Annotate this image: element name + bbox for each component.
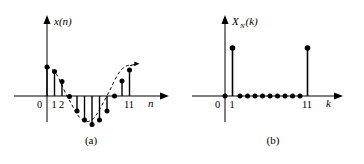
panel-b-plot: 0 1 11 X N (k) k [182, 0, 364, 134]
ktick-label-1: 1 [230, 99, 235, 110]
figure-root: 0 1 2 11 x(n) n (a) [0, 0, 364, 164]
envelope-curve-a [47, 62, 140, 122]
x-axis-label-b: k [326, 97, 332, 109]
xtick-label-2: 2 [59, 99, 64, 110]
xtick-label-1: 1 [52, 99, 57, 110]
y-axis-b [222, 15, 229, 122]
xtick-label-0: 0 [37, 99, 42, 110]
caption-a: (a) [0, 134, 182, 146]
panel-a: 0 1 2 11 x(n) n (a) [0, 0, 182, 164]
stem-series-b [223, 45, 311, 98]
x-axis-label-a: n [148, 97, 154, 109]
caption-b: (b) [182, 134, 364, 146]
y-axis-label-b-sub: N [239, 22, 245, 30]
panel-b: 0 1 11 X N (k) k (b) [182, 0, 364, 164]
xtick-label-11: 11 [124, 99, 134, 110]
y-axis-label-a: x(n) [53, 15, 72, 28]
ktick-label-0: 0 [215, 99, 220, 110]
y-axis-label-b-tail: (k) [246, 15, 259, 28]
panel-a-plot: 0 1 2 11 x(n) n [0, 0, 182, 134]
ktick-label-11: 11 [302, 99, 312, 110]
y-axis-label-b-main: X [231, 15, 240, 27]
y-axis-label-b: X N (k) [231, 15, 258, 30]
